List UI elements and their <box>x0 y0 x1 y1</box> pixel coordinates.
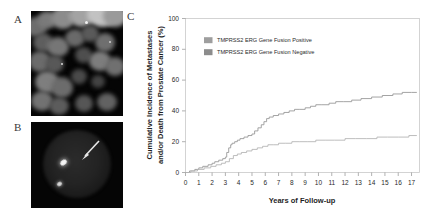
x-tick-label: 12 <box>341 179 349 186</box>
x-tick-label: 3 <box>224 179 228 186</box>
x-tick-label: 4 <box>237 179 241 186</box>
x-tick-label: 13 <box>355 179 363 186</box>
y-axis: 0 20 40 60 80 100 <box>168 15 185 176</box>
x-tick-label: 5 <box>250 179 254 186</box>
series-curve-fusion-negative <box>186 136 417 173</box>
x-axis: 01234567891011121314151617 <box>184 173 416 186</box>
x-tick-label: 1 <box>197 179 201 186</box>
x-tick-label: 0 <box>184 179 188 186</box>
x-tick-label: 11 <box>328 179 335 186</box>
y-tick-label: 100 <box>168 15 179 22</box>
chart-legend: TMPRSS2 ERG Gene Fusion Positive TMPRSS2… <box>204 37 314 55</box>
x-tick-label: 7 <box>277 179 281 186</box>
cumulative-incidence-chart: 0 20 40 60 80 100 Cumulative Incidence o… <box>0 0 444 217</box>
y-tick-label: 0 <box>175 169 179 176</box>
x-tick-label: 2 <box>210 179 214 186</box>
x-axis-title: Years of Follow-up <box>269 196 336 205</box>
y-tick-label: 40 <box>172 107 180 114</box>
x-tick-label: 15 <box>381 179 389 186</box>
legend-swatch <box>204 49 213 55</box>
x-tick-label: 8 <box>290 179 294 186</box>
figure-container: A B C <box>0 0 444 217</box>
legend-label: TMPRSS2 ERG Gene Fusion Negative <box>217 49 314 55</box>
series-curve-fusion-positive <box>186 92 417 172</box>
x-tick-label: 9 <box>303 179 307 186</box>
y-tick-label: 60 <box>172 76 180 83</box>
x-tick-label: 14 <box>368 179 376 186</box>
y-axis-title-line2: and/or Death from Prostate Cancer (%) <box>156 26 165 164</box>
x-tick-label: 16 <box>395 179 403 186</box>
x-tick-label: 10 <box>315 179 323 186</box>
series-group <box>186 92 417 172</box>
x-tick-label: 17 <box>408 179 416 186</box>
y-tick-label: 80 <box>172 45 180 52</box>
y-tick-label: 20 <box>172 138 180 145</box>
y-axis-title-line1: Cumulative Incidence of Metastases <box>145 31 154 160</box>
legend-swatch <box>204 37 213 43</box>
x-tick-label: 6 <box>263 179 267 186</box>
legend-label: TMPRSS2 ERG Gene Fusion Positive <box>217 37 312 43</box>
